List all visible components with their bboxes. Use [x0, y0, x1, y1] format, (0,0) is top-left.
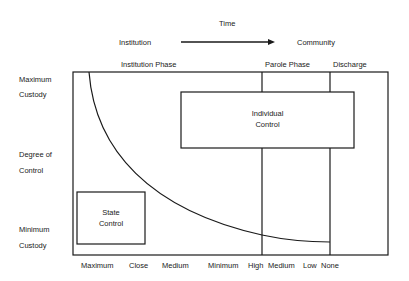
arrow-head-icon: [268, 39, 275, 45]
state-control-line1: State: [77, 207, 145, 218]
individual-control-label: Individual Control: [181, 108, 354, 130]
diagram-canvas: [0, 0, 409, 281]
y-label-mid-1: Degree of: [19, 151, 52, 159]
x-tick-none: None: [321, 262, 339, 270]
time-label: Time: [219, 20, 235, 28]
phase-institution: Institution Phase: [121, 61, 176, 69]
community-label: Community: [297, 39, 335, 47]
phase-parole: Parole Phase: [265, 61, 310, 69]
x-tick-high: High: [248, 262, 263, 270]
y-label-min-1: Minimum: [19, 226, 49, 234]
x-tick-medium: Medium: [162, 262, 189, 270]
x-tick-close: Close: [129, 262, 148, 270]
individual-control-line1: Individual: [181, 108, 354, 119]
y-label-max-1: Maximum: [19, 76, 52, 84]
state-control-label: State Control: [77, 207, 145, 229]
y-label-mid-2: Control: [19, 167, 43, 175]
individual-control-line2: Control: [181, 119, 354, 130]
x-tick-minimum: Minimum: [208, 262, 238, 270]
y-label-min-2: Custody: [19, 242, 47, 250]
state-control-line2: Control: [77, 218, 145, 229]
x-tick-low: Low: [303, 262, 317, 270]
phase-discharge: Discharge: [333, 61, 367, 69]
x-tick-medium-parole: Medium: [268, 262, 295, 270]
y-label-max-2: Custody: [19, 91, 47, 99]
institution-label: Institution: [119, 39, 151, 47]
x-tick-maximum: Maximum: [81, 262, 114, 270]
